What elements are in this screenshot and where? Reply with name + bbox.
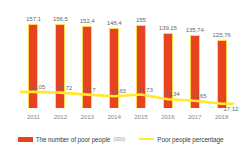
chart-legend: The number of poor people (000) Poor peo… <box>0 128 241 150</box>
percentage-value-label-2014: 20,83 <box>111 87 126 94</box>
percentage-value-label-2016: 19,34 <box>165 90 180 97</box>
percentage-value-label-2012: 22,72 <box>57 84 72 91</box>
chart-container: 157,1156,5152,4148,4155139,15135,74125,7… <box>0 0 241 153</box>
bar-value-label-2017: 135,74 <box>180 26 210 33</box>
legend-label-poor-people-percentage: Poor people percentage <box>157 136 223 143</box>
x-tick-2011: 2011 <box>19 113 47 120</box>
plot-area: 157,1156,5152,4148,4155139,15135,74125,7… <box>0 0 241 122</box>
legend-item-poor-people-percentage: Poor people percentage <box>139 136 223 143</box>
x-tick-2017: 2017 <box>181 113 209 120</box>
legend-unit-poor-people-count: (000) <box>113 136 125 142</box>
bar-value-label-2016: 139,15 <box>153 24 183 31</box>
bar-value-label-2015: 155 <box>126 16 156 23</box>
bar-value-label-2018: 125,76 <box>207 31 237 38</box>
x-tick-2013: 2013 <box>73 113 101 120</box>
bar-2012 <box>55 24 65 108</box>
x-tick-2018: 2018 <box>208 113 236 120</box>
legend-label-poor-people-count: The number of poor people <box>36 136 111 143</box>
bar-2013 <box>82 26 92 108</box>
bar-2018 <box>217 40 227 108</box>
bar-value-label-2013: 152,4 <box>72 17 102 24</box>
legend-item-poor-people-count: The number of poor people (000) <box>18 136 126 143</box>
x-tick-2015: 2015 <box>127 113 155 120</box>
bar-value-label-2012: 156,5 <box>45 15 75 22</box>
percentage-value-label-2011: 23,05 <box>30 83 45 90</box>
x-tick-2012: 2012 <box>46 113 74 120</box>
bar-value-label-2011: 157,1 <box>18 15 48 22</box>
legend-swatch-bar-icon <box>18 137 33 142</box>
x-tick-2016: 2016 <box>154 113 182 120</box>
percentage-value-label-2017: 18,65 <box>192 92 207 99</box>
x-axis: 20112012201320142015201620172018 <box>0 108 241 122</box>
bar-2015 <box>136 25 146 108</box>
bar-2014 <box>109 28 119 108</box>
percentage-value-label-2015: 21,73 <box>138 86 153 93</box>
bar-value-label-2014: 148,4 <box>99 19 129 26</box>
x-tick-2014: 2014 <box>100 113 128 120</box>
percentage-value-label-2013: 21,7 <box>84 86 95 93</box>
legend-swatch-line-icon <box>139 138 154 141</box>
bar-2011 <box>28 24 38 108</box>
